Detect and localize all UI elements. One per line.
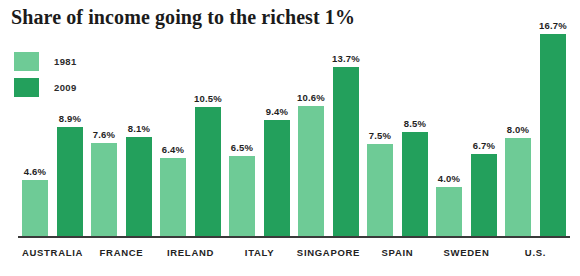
bar-item[interactable]: 7.5% [367,20,393,237]
bar[interactable] [91,143,117,237]
bar-value-label: 16.7% [539,20,567,31]
category-label: SWEDEN [432,247,501,258]
bar-value-label: 8.1% [128,123,150,134]
bar-value-label: 4.0% [438,173,460,184]
bar-value-label: 8.9% [59,113,81,124]
bar-item[interactable]: 7.6% [91,20,117,237]
bar-value-label: 8.5% [404,118,426,129]
bar[interactable] [126,137,152,237]
bar-item[interactable]: 16.7% [540,20,566,237]
bar-group: 4.0%6.7% [432,20,501,237]
bar-item[interactable]: 8.9% [57,20,83,237]
bar-item[interactable]: 8.0% [505,20,531,237]
category-axis: AUSTRALIAFRANCEIRELANDITALYSINGAPORESPAI… [18,247,570,267]
bar-value-label: 13.7% [332,53,360,64]
bar[interactable] [160,158,186,237]
bar-group: 7.5%8.5% [363,20,432,237]
bar-group: 4.6%8.9% [18,20,87,237]
bar-value-label: 7.5% [369,130,391,141]
bar-item[interactable]: 6.5% [229,20,255,237]
bar-item[interactable]: 6.4% [160,20,186,237]
bar[interactable] [264,120,290,237]
bar[interactable] [471,154,497,237]
bar-value-label: 6.5% [231,142,253,153]
chart-container: Share of income going to the richest 1% … [0,0,580,276]
bar-item[interactable]: 4.6% [22,20,48,237]
bar-group: 6.4%10.5% [156,20,225,237]
bar[interactable] [195,107,221,237]
bar[interactable] [540,34,566,237]
x-axis-line [18,236,570,238]
category-label: FRANCE [87,247,156,258]
category-label: U.S. [501,247,570,258]
bar[interactable] [57,127,83,237]
category-label: SPAIN [363,247,432,258]
bar-item[interactable]: 8.1% [126,20,152,237]
bar-value-label: 4.6% [24,166,46,177]
bar-item[interactable]: 10.6% [298,20,324,237]
bar[interactable] [402,132,428,237]
bar-value-label: 8.0% [507,124,529,135]
bar-item[interactable]: 4.0% [436,20,462,237]
bar-item[interactable]: 8.5% [402,20,428,237]
bar-value-label: 6.4% [162,144,184,155]
bar-group: 8.0%16.7% [501,20,570,237]
category-label: IRELAND [156,247,225,258]
bar-value-label: 10.6% [297,92,325,103]
bar-item[interactable]: 13.7% [333,20,359,237]
bar-value-label: 9.4% [266,106,288,117]
category-label: ITALY [225,247,294,258]
bar[interactable] [298,106,324,237]
bar-value-label: 7.6% [93,129,115,140]
bar[interactable] [22,180,48,237]
plot-area: 4.6%8.9%7.6%8.1%6.4%10.5%6.5%9.4%10.6%13… [18,20,570,237]
bar-item[interactable]: 9.4% [264,20,290,237]
bar-value-label: 6.7% [473,140,495,151]
bar-item[interactable]: 10.5% [195,20,221,237]
bar[interactable] [229,156,255,237]
category-label: SINGAPORE [294,247,363,258]
bar-item[interactable]: 6.7% [471,20,497,237]
bar-group: 7.6%8.1% [87,20,156,237]
bar-value-label: 10.5% [194,93,222,104]
bar[interactable] [436,187,462,237]
bar[interactable] [505,138,531,237]
bar-group: 6.5%9.4% [225,20,294,237]
bar[interactable] [367,144,393,237]
category-label: AUSTRALIA [18,247,87,258]
bar-group: 10.6%13.7% [294,20,363,237]
bar[interactable] [333,67,359,237]
